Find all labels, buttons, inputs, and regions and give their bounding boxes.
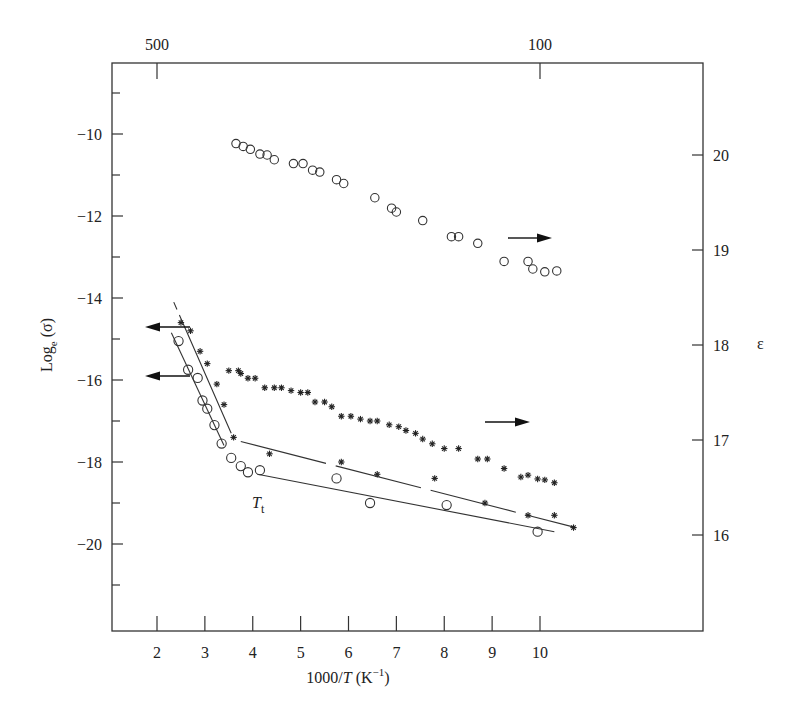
axis-ticks: 2345678910−10−12−14−16−18−20201918171650…: [77, 36, 729, 661]
fit-lines: [171, 302, 576, 532]
circle-marker: [419, 216, 427, 224]
circle-marker: [524, 257, 532, 265]
circle-marker: [529, 265, 537, 273]
circle-marker: [243, 468, 252, 477]
fit-line: [241, 442, 576, 528]
chart-canvas: 2345678910−10−12−14−16−18−20201918171650…: [0, 0, 794, 714]
y-left-tick-label: −12: [77, 208, 102, 225]
circle-marker: [193, 373, 202, 382]
arrow-left-icon-head: [145, 372, 160, 381]
y-right-tick-label: 20: [713, 147, 729, 164]
circle-marker: [289, 159, 297, 167]
top-tick-label: 100: [528, 36, 552, 53]
transition-temperature-label: Tt: [252, 494, 265, 516]
circle-marker: [442, 500, 451, 509]
circle-marker: [553, 267, 561, 275]
plot-frame: [112, 63, 703, 631]
plot-border: [112, 63, 703, 631]
arrow-right-icon-head: [537, 234, 552, 243]
circle-marker: [474, 239, 482, 247]
data-points: [174, 139, 577, 536]
y-right-tick-label: 18: [713, 337, 729, 354]
x-tick-label: 6: [345, 644, 353, 661]
y-right-tick-label: 17: [713, 432, 729, 449]
x-tick-label: 2: [153, 644, 161, 661]
circle-marker: [227, 453, 236, 462]
circle-marker: [365, 498, 374, 507]
circle-marker: [371, 194, 379, 202]
circle-marker: [299, 159, 307, 167]
y-left-tick-label: −18: [77, 454, 102, 471]
fit-line: [171, 333, 224, 446]
y-right-tick-label: 19: [713, 242, 729, 259]
x-tick-label: 5: [297, 644, 305, 661]
y-left-tick-label: −20: [77, 536, 102, 553]
circle-marker: [255, 466, 264, 475]
arrow-left-icon-head: [145, 323, 160, 332]
x-tick-label: 4: [249, 644, 257, 661]
x-tick-label: 10: [532, 644, 548, 661]
series-epsilon_stars: [226, 367, 558, 486]
y-right-tick-label: 16: [713, 527, 729, 544]
circle-marker: [541, 268, 549, 276]
y-left-tick-label: −14: [77, 290, 102, 307]
arrow-right-icon-head: [515, 418, 530, 427]
x-tick-label: 3: [201, 644, 209, 661]
y-left-axis-title: Loge (σ): [38, 318, 59, 372]
y-right-axis-title: ε: [757, 335, 764, 352]
y-left-tick-label: −10: [77, 126, 102, 143]
top-tick-label: 500: [145, 36, 169, 53]
x-tick-label: 8: [440, 644, 448, 661]
circle-marker: [332, 474, 341, 483]
x-tick-label: 9: [488, 644, 496, 661]
series-sigma_circles: [174, 336, 542, 536]
fit-line: [258, 474, 555, 531]
x-axis-title: 1000/T (K−1): [306, 666, 389, 687]
circle-marker: [246, 145, 254, 153]
circle-marker: [270, 156, 278, 164]
y-left-tick-label: −16: [77, 372, 102, 389]
series-epsilon_circles: [232, 139, 561, 276]
circle-marker: [500, 257, 508, 265]
circle-marker: [340, 179, 348, 187]
x-tick-label: 7: [392, 644, 400, 661]
